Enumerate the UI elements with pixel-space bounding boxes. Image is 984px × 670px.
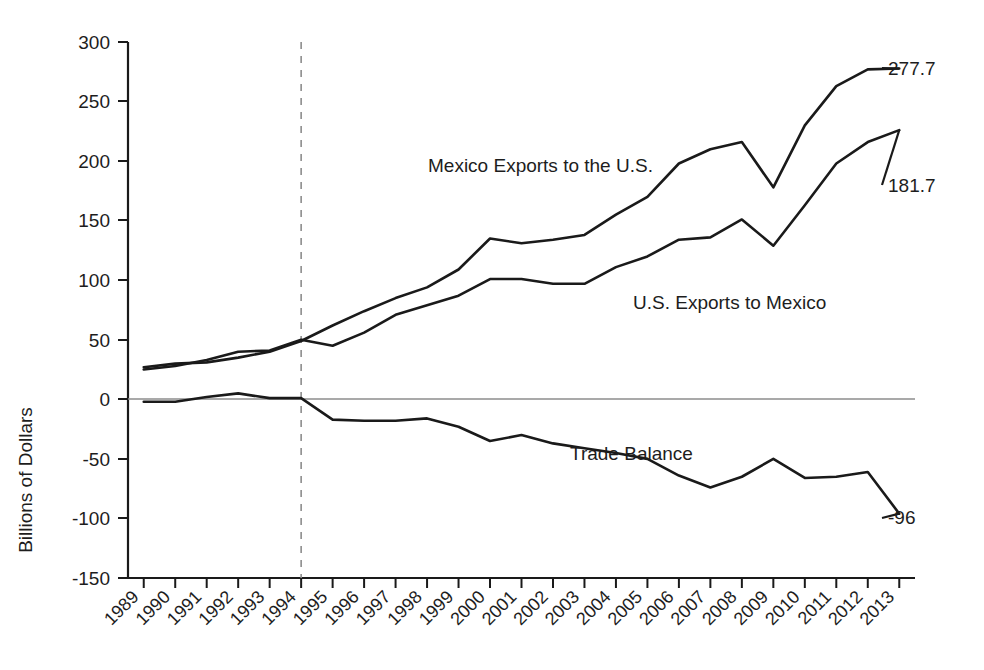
x-tick-label: 2011 xyxy=(794,587,836,629)
x-tick-label: 1996 xyxy=(320,587,362,629)
x-tick-label: 2002 xyxy=(509,587,551,629)
x-tick-label: 2009 xyxy=(730,587,772,629)
x-tick-label: 1992 xyxy=(195,587,237,629)
series-line-mexico-exports-to-the-u-s xyxy=(144,69,900,368)
y-tick-label: 200 xyxy=(78,151,110,172)
y-tick-label: -100 xyxy=(72,508,110,529)
y-tick-label: 250 xyxy=(78,91,110,112)
x-tick-label: 2004 xyxy=(572,587,614,629)
x-tick-label: 1999 xyxy=(415,587,457,629)
y-tick-label: 150 xyxy=(78,210,110,231)
x-tick-label: 2013 xyxy=(856,587,898,629)
y-tick-label: -50 xyxy=(83,449,110,470)
end-label-us-exports: 181.7 xyxy=(888,175,936,196)
x-tick-marks xyxy=(144,578,900,588)
x-tick-label: 1994 xyxy=(258,587,300,629)
y-tick-label: -150 xyxy=(72,568,110,589)
x-tick-label: 1991 xyxy=(163,587,205,629)
x-tick-label: 2012 xyxy=(824,587,866,629)
x-tick-label: 1995 xyxy=(289,587,331,629)
x-tick-label: 1989 xyxy=(100,587,142,629)
chart-container: 300 250 200 150 100 50 0 -50 -100 -150 B… xyxy=(0,0,984,670)
y-tick-label: 100 xyxy=(78,270,110,291)
y-axis-title: Billions of Dollars xyxy=(15,407,36,553)
x-tick-label: 1990 xyxy=(132,587,174,629)
x-tick-label: 2003 xyxy=(541,587,583,629)
x-tick-labels: 1989199019911992199319941995199619971998… xyxy=(100,587,898,629)
series-label-mexico-exports: Mexico Exports to the U.S. xyxy=(428,155,653,176)
x-tick-label: 2001 xyxy=(478,587,520,629)
end-label-trade-balance: -96 xyxy=(888,507,915,528)
x-tick-label: 1993 xyxy=(226,587,268,629)
series-label-us-exports: U.S. Exports to Mexico xyxy=(633,292,826,313)
end-label-mexico-exports: 277.7 xyxy=(888,58,936,79)
line-chart: 300 250 200 150 100 50 0 -50 -100 -150 B… xyxy=(0,0,984,670)
series-line-trade-balance xyxy=(144,393,900,513)
series-label-trade-balance: Trade Balance xyxy=(570,443,693,464)
x-tick-label: 2007 xyxy=(667,587,709,629)
y-tick-label: 50 xyxy=(89,330,110,351)
y-tick-labels: 300 250 200 150 100 50 0 -50 -100 -150 xyxy=(72,32,110,589)
x-tick-label: 1998 xyxy=(383,587,425,629)
y-tick-label: 300 xyxy=(78,32,110,53)
x-tick-label: 2008 xyxy=(698,587,740,629)
x-tick-label: 2000 xyxy=(446,587,488,629)
y-tick-label: 0 xyxy=(99,389,110,410)
x-tick-label: 2005 xyxy=(604,587,646,629)
y-tick-marks xyxy=(118,42,128,578)
x-tick-label: 2010 xyxy=(761,587,803,629)
x-tick-label: 2006 xyxy=(635,587,677,629)
x-tick-label: 1997 xyxy=(352,587,394,629)
